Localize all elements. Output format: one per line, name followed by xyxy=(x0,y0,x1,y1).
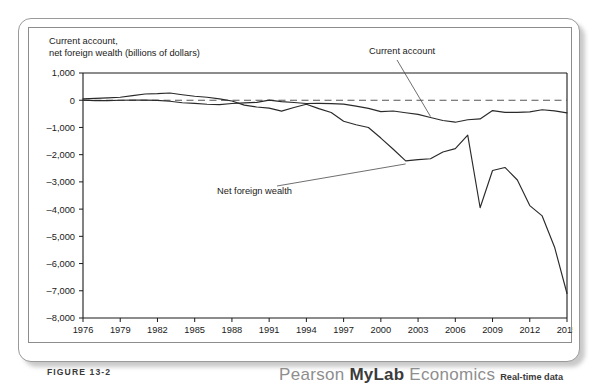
svg-text:–6,000: –6,000 xyxy=(47,259,75,269)
svg-text:2006: 2006 xyxy=(445,325,466,335)
svg-text:2009: 2009 xyxy=(482,325,503,335)
current-account-net-foreign-wealth-chart: 1,0000–1,000–2,000–3,000–4,000–5,000–6,0… xyxy=(29,28,573,344)
svg-text:–3,000: –3,000 xyxy=(47,177,75,187)
pearson-mylab-brand: Pearson MyLab Economics Real-time data xyxy=(279,365,563,385)
chart-panel: Current account, net foreign wealth (bil… xyxy=(28,27,572,343)
svg-text:2012: 2012 xyxy=(519,325,540,335)
svg-text:1994: 1994 xyxy=(296,325,317,335)
annotation-current-account: Current account xyxy=(369,46,436,56)
svg-text:–7,000: –7,000 xyxy=(47,286,75,296)
svg-text:1,000: 1,000 xyxy=(52,68,75,78)
svg-text:–1,000: –1,000 xyxy=(47,123,75,133)
svg-text:2003: 2003 xyxy=(408,325,429,335)
brand-mylab: MyLab xyxy=(350,365,405,385)
brand-realtime-data: Real-time data xyxy=(500,372,563,382)
figure-caption: FIGURE 13-2 xyxy=(47,367,111,377)
svg-text:1997: 1997 xyxy=(333,325,354,335)
brand-pearson: Pearson xyxy=(279,365,344,385)
svg-text:1985: 1985 xyxy=(184,325,205,335)
annotation-net-foreign-wealth: Net foreign wealth xyxy=(217,186,292,196)
svg-text:–8,000: –8,000 xyxy=(47,313,75,323)
svg-text:1988: 1988 xyxy=(222,325,243,335)
svg-text:1979: 1979 xyxy=(110,325,131,335)
svg-text:–2,000: –2,000 xyxy=(47,150,75,160)
svg-text:–4,000: –4,000 xyxy=(47,205,75,215)
svg-text:0: 0 xyxy=(70,96,75,106)
brand-economics: Economics xyxy=(409,365,495,385)
svg-text:1991: 1991 xyxy=(259,325,280,335)
svg-text:2015: 2015 xyxy=(557,325,573,335)
svg-text:2000: 2000 xyxy=(371,325,392,335)
svg-text:1976: 1976 xyxy=(73,325,94,335)
svg-text:1982: 1982 xyxy=(147,325,168,335)
figure-card: Current account, net foreign wealth (bil… xyxy=(18,18,580,362)
svg-text:–5,000: –5,000 xyxy=(47,232,75,242)
